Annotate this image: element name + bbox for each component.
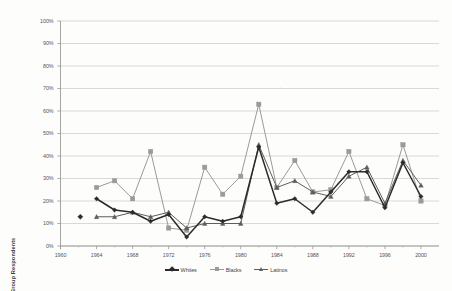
data-point-marker: [78, 214, 83, 219]
line-chart-plot: [0, 0, 452, 291]
legend-marker-square-icon: [210, 266, 224, 273]
x-tick-label-1988: 1988: [298, 252, 328, 258]
x-tick-label-1992: 1992: [334, 252, 364, 258]
data-point-marker: [293, 158, 297, 162]
y-tick-label-70%: 70%: [28, 85, 54, 91]
series-whites: [94, 145, 423, 239]
legend-marker-diamond-icon: [165, 266, 179, 273]
data-point-marker: [221, 192, 225, 196]
x-tick-label-1960: 1960: [46, 252, 76, 258]
legend-marker-triangle-icon: [254, 266, 268, 273]
x-tick-label-1984: 1984: [262, 252, 292, 258]
data-point-marker: [401, 143, 405, 147]
series-line-blacks: [97, 104, 421, 230]
y-tick-label-100%: 100%: [28, 18, 54, 24]
x-tick-label-1996: 1996: [370, 252, 400, 258]
legend-item-whites[interactable]: Whites: [165, 266, 197, 273]
data-point-marker: [419, 199, 423, 203]
y-tick-label-20%: 20%: [28, 198, 54, 204]
y-tick-label-60%: 60%: [28, 108, 54, 114]
data-point-marker: [221, 219, 225, 223]
data-point-marker: [239, 174, 243, 178]
chart-container: % of Group Respondents 0%10%20%30%40%50%…: [0, 0, 452, 291]
series-blacks: [94, 102, 423, 232]
data-point-marker: [202, 165, 206, 169]
legend-item-latinos[interactable]: Latinos: [254, 266, 287, 273]
y-tick-label-0%: 0%: [28, 243, 54, 249]
data-point-marker: [365, 165, 370, 169]
data-point-marker: [347, 149, 351, 153]
series-line-latinos: [97, 145, 421, 228]
x-tick-label-1976: 1976: [190, 252, 220, 258]
data-point-marker: [94, 185, 98, 189]
x-tick-label-1968: 1968: [118, 252, 148, 258]
data-point-marker: [130, 197, 134, 201]
x-tick-label-1980: 1980: [226, 252, 256, 258]
data-point-marker: [275, 201, 279, 205]
chart-legend: WhitesBlacksLatinos: [0, 266, 452, 273]
legend-label: Whites: [181, 267, 197, 273]
x-tick-label-2000: 2000: [406, 252, 436, 258]
y-tick-label-50%: 50%: [28, 130, 54, 136]
data-point-marker: [365, 197, 369, 201]
x-tick-label-1964: 1964: [82, 252, 112, 258]
isolated-point-whites: [78, 214, 83, 219]
y-tick-label-30%: 30%: [28, 175, 54, 181]
y-tick-label-10%: 10%: [28, 220, 54, 226]
legend-item-blacks[interactable]: Blacks: [210, 266, 242, 273]
legend-label: Blacks: [226, 267, 242, 273]
x-tick-label-1972: 1972: [154, 252, 184, 258]
y-tick-label-90%: 90%: [28, 40, 54, 46]
data-point-marker: [166, 226, 170, 230]
data-point-marker: [257, 102, 261, 106]
data-point-marker: [148, 149, 152, 153]
data-point-marker: [293, 178, 298, 182]
y-tick-label-40%: 40%: [28, 153, 54, 159]
data-point-marker: [112, 179, 116, 183]
legend-label: Latinos: [270, 267, 287, 273]
y-tick-label-80%: 80%: [28, 63, 54, 69]
